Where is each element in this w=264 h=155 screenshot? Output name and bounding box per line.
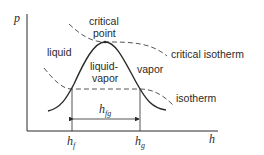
hf-tick-label: hf bbox=[67, 134, 77, 150]
region-liquid-vapor-line1: liquid- bbox=[90, 60, 119, 72]
critical-isotherm-label: critical isotherm bbox=[171, 48, 244, 60]
y-axis-label: p bbox=[13, 11, 20, 25]
region-liquid-label: liquid bbox=[47, 46, 72, 58]
x-axis-label: h bbox=[209, 132, 215, 146]
hfg-label: hfg bbox=[99, 102, 111, 118]
critical-label-line2: point bbox=[93, 27, 116, 39]
critical-point-marker bbox=[104, 41, 107, 44]
region-liquid-vapor-line2: vapor bbox=[92, 72, 119, 84]
region-vapor-label: vapor bbox=[137, 63, 164, 75]
critical-label-line1: critical bbox=[89, 15, 119, 27]
ph-diagram: p h critical point liquid liquid- vapor … bbox=[0, 0, 264, 155]
hg-tick-label: hg bbox=[135, 134, 145, 150]
isotherm-label: isotherm bbox=[176, 92, 217, 104]
